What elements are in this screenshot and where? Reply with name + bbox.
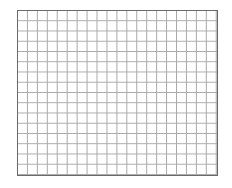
grid-paper: [17, 10, 218, 176]
canvas: [0, 0, 232, 188]
